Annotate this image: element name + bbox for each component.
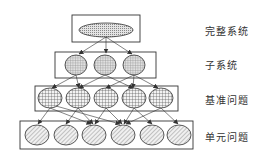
level-benchmark-problem [35, 86, 178, 111]
level-unit-problem [20, 121, 193, 149]
level-subsystem [55, 52, 156, 78]
arrows-level1-to-level2 [79, 37, 132, 54]
label-unit-problem: 单元问题 [205, 129, 249, 144]
label-subsystem: 子系统 [205, 57, 238, 72]
label-complete-system: 完整系统 [205, 23, 249, 38]
label-benchmark-problem: 基准问题 [205, 92, 249, 107]
